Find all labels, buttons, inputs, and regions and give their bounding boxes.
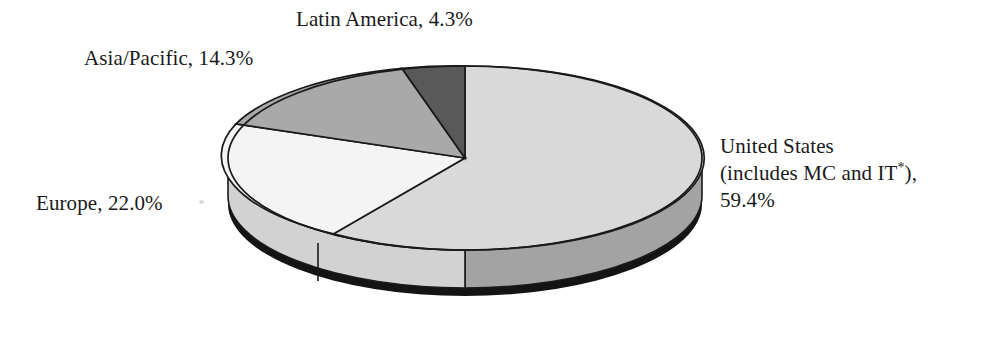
slice-label-united-states-line1: United States: [720, 133, 970, 160]
slice-label-latin-america: Latin America, 4.3%: [296, 6, 473, 33]
slice-label-us-note-close: ),: [905, 161, 917, 185]
slice-label-united-states-line2: (includes MC and IT*),: [720, 160, 970, 187]
slice-label-united-states-line3: 59.4%: [720, 187, 970, 214]
footnote-asterisk: *: [897, 160, 904, 175]
pie-chart-figure: Latin America, 4.3% Asia/Pacific, 14.3% …: [0, 0, 997, 340]
slice-label-united-states: United States (includes MC and IT*), 59.…: [720, 133, 970, 214]
paper-speck: [199, 200, 204, 204]
slice-label-us-note-open: (includes MC and IT: [720, 161, 897, 185]
slice-label-europe: Europe, 22.0%: [36, 190, 163, 217]
slice-label-asia-pacific: Asia/Pacific, 14.3%: [84, 45, 253, 72]
